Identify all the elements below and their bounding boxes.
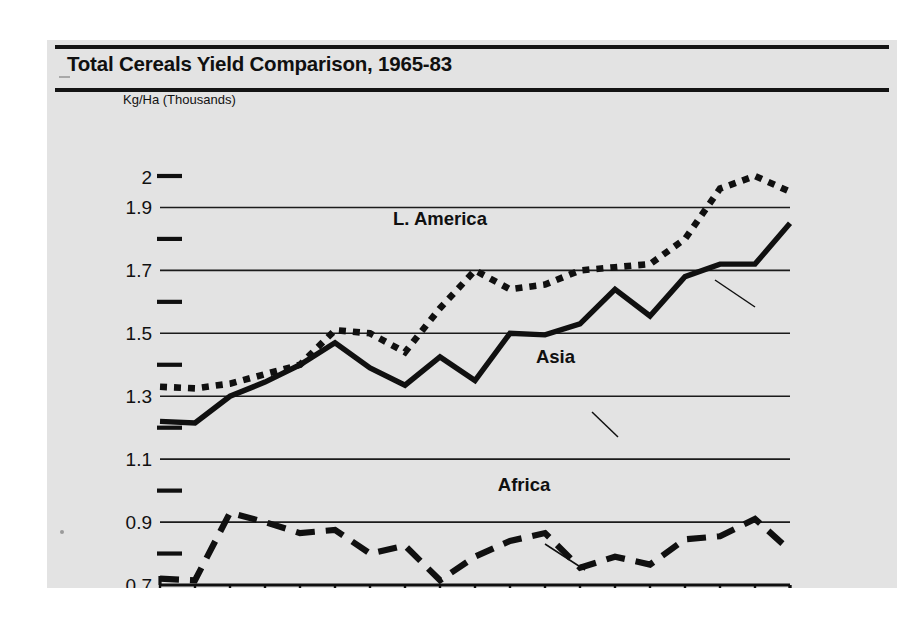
corner-speck [60, 530, 64, 534]
gridlines-group [160, 207, 790, 522]
series-line-asia [160, 223, 790, 423]
y-tick-label: 1.5 [126, 323, 152, 344]
leader-line [592, 412, 618, 437]
margin-mark [59, 76, 70, 78]
series-label-l-america: L. America [393, 208, 488, 229]
series-label-africa: Africa [498, 474, 551, 495]
leader-line [545, 544, 585, 570]
chart-plot: 1.91.71.51.31.10.920.7 19656769717375777… [47, 92, 897, 588]
y-tick-label: 0.9 [126, 512, 152, 533]
y-tick-label: 2 [141, 167, 152, 188]
leader-line [715, 280, 755, 307]
series-annotations: L. AmericaAsiaAfrica [393, 208, 755, 570]
y-axis-origin-label: 0.7 [126, 575, 152, 588]
y-axis-unit-label: Kg/Ha (Thousands) [123, 92, 236, 107]
y-tick-label: 1.7 [126, 260, 152, 281]
series-group [160, 176, 790, 580]
chart-title: Total Cereals Yield Comparison, 1965-83 [67, 52, 452, 76]
y-tick-label: 1.9 [126, 197, 152, 218]
x-axis [160, 576, 790, 588]
y-axis-tick-labels: 1.91.71.51.31.10.920.7 [126, 167, 152, 588]
y-tick-label: 1.1 [126, 449, 152, 470]
minor-ticks-group [157, 176, 182, 554]
y-tick-label: 1.3 [126, 386, 152, 407]
figure-panel: Total Cereals Yield Comparison, 1965-83 … [47, 40, 897, 588]
title-rule-top [55, 45, 889, 49]
series-label-asia: Asia [536, 346, 576, 367]
